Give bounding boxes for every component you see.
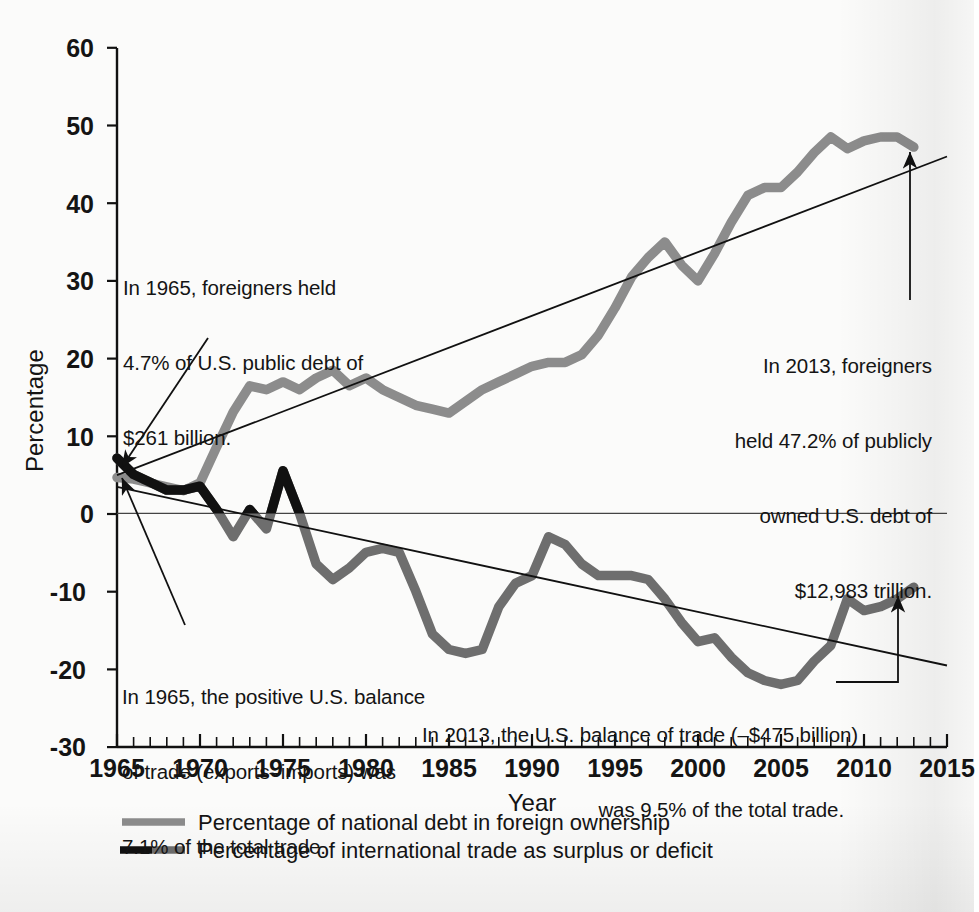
annotation-line: In 1965, foreigners held <box>123 275 403 300</box>
annotation-debt-2013: In 2013, foreigners held 47.2% of public… <box>660 303 932 653</box>
y-tick-label: -20 <box>22 655 86 686</box>
legend-label-debt: Percentage of national debt in foreign o… <box>198 810 670 837</box>
annotation-debt-1965: In 1965, foreigners held 4.7% of U.S. pu… <box>123 225 403 500</box>
annotation-line: In 2013, the U.S. balance of trade (–$47… <box>422 722 852 747</box>
annotation-line: In 1965, the positive U.S. balance <box>122 684 452 709</box>
y-axis-ticks <box>107 48 117 747</box>
annotation-line: $261 billion. <box>123 425 403 450</box>
y-tick-label: 60 <box>30 33 94 64</box>
annotation-line: held 47.2% of publicly <box>660 428 932 453</box>
y-tick-label: 50 <box>30 111 94 142</box>
annotation-line: 4.7% of U.S. public debt of <box>123 350 403 375</box>
annotation-line: $12,983 trillion. <box>660 578 932 603</box>
annotation-line: owned U.S. debt of <box>660 503 932 528</box>
y-tick-label: 0 <box>30 499 94 530</box>
y-tick-label: 30 <box>30 266 94 297</box>
y-tick-label: -10 <box>22 577 86 608</box>
legend-label-trade: Percentage of international trade as sur… <box>198 838 713 865</box>
x-tick-label: 2015 <box>902 753 979 784</box>
annotation-trade-1965: In 1965, the positive U.S. balance of tr… <box>122 634 452 909</box>
y-axis-title: Percentage <box>20 349 49 472</box>
annotation-line: In 2013, foreigners <box>660 353 932 378</box>
annotation-line: of trade (exports–imports) was <box>122 759 452 784</box>
y-tick-label: 40 <box>30 189 94 220</box>
